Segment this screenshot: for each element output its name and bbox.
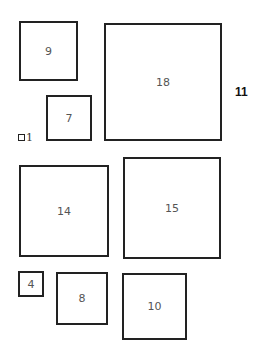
square-label: 14 (57, 205, 71, 218)
square-label: 15 (165, 202, 179, 215)
square-10: 10 (122, 273, 187, 340)
square-label: 8 (79, 292, 86, 305)
square-label: 18 (156, 76, 170, 89)
square-1 (18, 134, 25, 141)
square-1-label: 1 (26, 131, 33, 144)
square-4: 4 (18, 271, 44, 297)
square-8: 8 (56, 272, 108, 325)
square-7: 7 (46, 95, 92, 141)
side-label-11: 11 (235, 85, 248, 99)
square-18: 18 (104, 23, 222, 141)
square-label: 10 (148, 300, 162, 313)
square-15: 15 (123, 157, 221, 259)
square-14: 14 (19, 165, 109, 257)
square-label: 7 (66, 112, 73, 125)
square-label: 9 (45, 45, 52, 58)
square-9: 9 (19, 21, 78, 81)
square-label: 4 (28, 278, 35, 291)
